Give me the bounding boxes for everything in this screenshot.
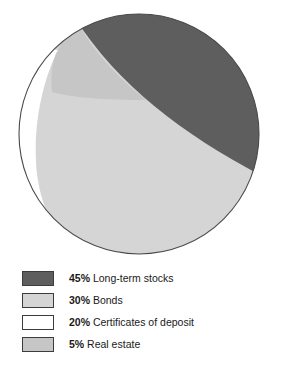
chart-legend: 45% Long-term stocks 30% Bonds 20% Certi… — [22, 267, 272, 355]
legend-label-certificates-of-deposit: Certificates of deposit — [93, 316, 194, 328]
pie-chart-svg — [0, 0, 286, 262]
legend-item-certificates-of-deposit: 20% Certificates of deposit — [22, 311, 272, 333]
legend-percent-long-term-stocks: 45% — [69, 272, 90, 284]
legend-text-bonds: 30% Bonds — [69, 295, 123, 306]
legend-text-certificates-of-deposit: 20% Certificates of deposit — [69, 317, 194, 328]
legend-swatch-long-term-stocks — [22, 271, 54, 286]
legend-percent-certificates-of-deposit: 20% — [69, 316, 90, 328]
legend-text-real-estate: 5% Real estate — [69, 339, 140, 350]
legend-percent-real-estate: 5% — [69, 338, 84, 350]
pie-chart-area — [0, 0, 286, 262]
legend-label-bonds: Bonds — [93, 294, 123, 306]
legend-swatch-certificates-of-deposit — [22, 315, 54, 330]
legend-label-long-term-stocks: Long-term stocks — [93, 272, 174, 284]
legend-swatch-bonds — [22, 293, 54, 308]
legend-label-real-estate: Real estate — [87, 338, 140, 350]
legend-text-long-term-stocks: 45% Long-term stocks — [69, 273, 173, 284]
legend-item-long-term-stocks: 45% Long-term stocks — [22, 267, 272, 289]
legend-percent-bonds: 30% — [69, 294, 90, 306]
legend-swatch-real-estate — [22, 337, 54, 352]
legend-item-bonds: 30% Bonds — [22, 289, 272, 311]
legend-item-real-estate: 5% Real estate — [22, 333, 272, 355]
